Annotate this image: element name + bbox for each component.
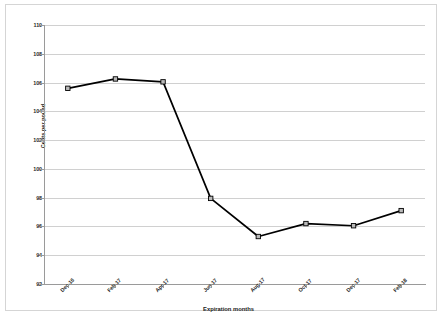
x-axis-tick-labels: Dec-16Feb-17Apr-17Jun-17Aug-17Oct-17Dec-… — [6, 5, 445, 321]
x-axis-tick-mark — [211, 284, 212, 288]
x-axis-tick-mark — [258, 284, 259, 288]
x-axis-tick-mark — [401, 284, 402, 288]
y-axis-tick-mark — [40, 111, 44, 112]
y-axis-tick-mark — [40, 140, 44, 141]
x-axis-tick-mark — [354, 284, 355, 288]
x-axis-tick-mark — [163, 284, 164, 288]
y-axis-tick-mark — [40, 198, 44, 199]
y-axis-tick-mark — [40, 83, 44, 84]
y-axis-tick-mark — [40, 255, 44, 256]
y-axis-tick-mark — [40, 54, 44, 55]
x-axis-tick-mark — [306, 284, 307, 288]
y-axis-tick-mark — [40, 284, 44, 285]
y-axis-tick-mark — [40, 25, 44, 26]
x-axis-tick-mark — [115, 284, 116, 288]
y-axis-tick-mark — [40, 169, 44, 170]
y-axis-tick-mark — [40, 226, 44, 227]
x-axis-tick-label: Apr-17 — [154, 277, 170, 293]
x-axis-tick-label: Oct-17 — [297, 278, 313, 294]
chart-frame: Cents per pound 110108106104102100989694… — [5, 4, 437, 311]
x-axis-title: Expiration months — [6, 306, 445, 312]
x-axis-tick-mark — [68, 284, 69, 288]
